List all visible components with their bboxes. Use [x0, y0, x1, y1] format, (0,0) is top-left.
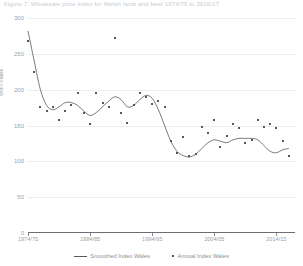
- chart-legend: Smoothed Index Wales Annual Index Wales: [0, 249, 303, 263]
- legend-label: Smoothed Index Wales: [90, 253, 150, 260]
- data-point: [263, 126, 265, 128]
- data-point: [120, 112, 122, 114]
- data-point: [232, 123, 234, 125]
- data-point: [251, 139, 253, 141]
- data-point: [89, 123, 91, 125]
- y-tick-label: 200: [3, 87, 24, 93]
- data-point: [33, 71, 35, 73]
- data-point: [207, 132, 209, 134]
- data-point: [257, 119, 259, 121]
- data-point: [39, 106, 41, 108]
- data-point: [102, 102, 104, 104]
- y-tick-label: 300: [3, 15, 24, 21]
- data-point: [219, 146, 221, 148]
- data-point: [77, 92, 79, 94]
- x-tick-label: 1984/85: [80, 236, 100, 243]
- data-point: [108, 106, 110, 108]
- data-point: [244, 142, 246, 144]
- x-tick-label: 2014/15: [266, 236, 286, 243]
- data-point: [201, 126, 203, 128]
- legend-label: Annual Index Wales: [177, 253, 228, 260]
- data-point: [64, 110, 66, 112]
- data-point: [46, 110, 48, 112]
- chart-title: Figure 7: Wholesale price index for Wels…: [4, 0, 300, 8]
- data-point: [139, 92, 141, 94]
- data-point: [83, 112, 85, 114]
- data-point: [151, 103, 153, 105]
- y-tick-label: 150: [3, 123, 24, 129]
- data-point: [269, 123, 271, 125]
- data-point: [176, 152, 178, 154]
- data-point: [182, 136, 184, 138]
- x-tick-label: 1994/95: [142, 236, 162, 243]
- data-point: [95, 92, 97, 94]
- x-tick-label: 2004/05: [204, 236, 224, 243]
- data-point: [195, 153, 197, 155]
- data-point: [164, 106, 166, 108]
- dot-swatch-icon: [172, 255, 175, 258]
- line-swatch-icon: [74, 256, 87, 257]
- y-tick-label: 100: [3, 158, 24, 164]
- data-point: [275, 127, 277, 129]
- data-point: [126, 122, 128, 124]
- data-point: [282, 140, 284, 142]
- data-point: [170, 140, 172, 142]
- data-point: [70, 104, 72, 106]
- data-point: [27, 40, 29, 42]
- chart-container: Figure 7: Wholesale price index for Wels…: [0, 0, 303, 266]
- data-point: [114, 37, 116, 39]
- data-point: [52, 106, 54, 108]
- legend-item-annual: Annual Index Wales: [172, 253, 229, 260]
- y-tick-label: 250: [3, 51, 24, 57]
- smoothed-index-line: [28, 18, 295, 233]
- data-point: [133, 104, 135, 106]
- data-point: [188, 155, 190, 157]
- y-tick-label: 50: [3, 194, 24, 200]
- data-point: [238, 127, 240, 129]
- plot-area: [28, 18, 295, 233]
- data-point: [226, 135, 228, 137]
- data-point: [213, 119, 215, 121]
- data-point: [145, 96, 147, 98]
- data-point: [288, 155, 290, 157]
- legend-item-smoothed: Smoothed Index Wales: [74, 253, 150, 260]
- data-point: [58, 119, 60, 121]
- data-point: [157, 100, 159, 102]
- x-tick-label: 1974/75: [18, 236, 38, 243]
